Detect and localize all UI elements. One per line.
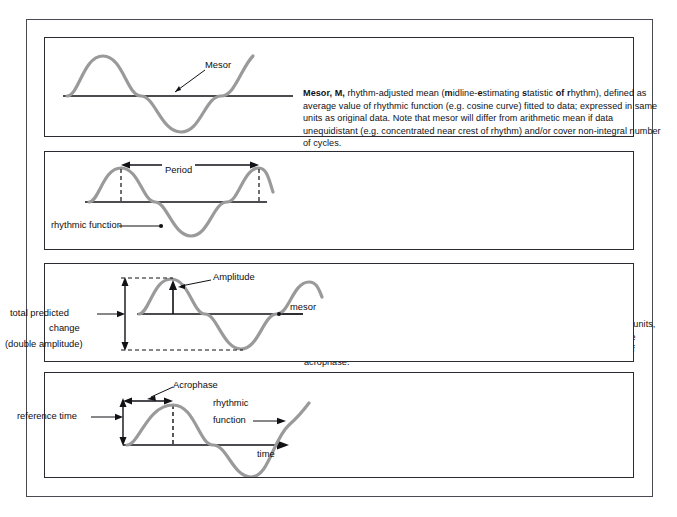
panel-period: Period rhythmic function Period, τ, dura…: [44, 151, 634, 250]
amplitude-callout-label: Amplitude: [213, 271, 255, 282]
period-callout-label: Period: [162, 164, 195, 175]
diagram-amplitude: Amplitude total predicted change (double…: [45, 264, 345, 361]
rhythmic-function-label-line2: function: [213, 414, 246, 425]
diagram-mesor: Mesor: [45, 38, 305, 136]
rhythmic-function-callout-label: rhythmic function: [51, 219, 122, 230]
figure-root: Mesor Mesor, M, rhythm-adjusted mean (mi…: [0, 0, 677, 517]
panel-acrophase: Acrophase reference time rhythmic functi…: [44, 372, 634, 478]
total-predicted-change-line1: total predicted: [10, 307, 69, 318]
panel-mesor: Mesor Mesor, M, rhythm-adjusted mean (mi…: [44, 37, 634, 137]
panel-amplitude: Amplitude total predicted change (double…: [44, 263, 634, 362]
mesor-callout-label-amplitude: mesor: [290, 301, 316, 312]
mesor-callout-label: Mesor: [205, 59, 231, 70]
reference-time-label: reference time: [17, 410, 77, 421]
text-mesor: Mesor, M, rhythm-adjusted mean (midline-…: [303, 87, 668, 150]
acrophase-callout-label: Acrophase: [173, 379, 218, 390]
diagram-period: Period rhythmic function: [45, 152, 305, 249]
double-amplitude-label: (double amplitude): [5, 338, 83, 349]
time-axis-label: time: [257, 448, 275, 459]
total-predicted-change-line2: change: [49, 322, 80, 333]
diagram-acrophase: Acrophase reference time rhythmic functi…: [45, 373, 345, 477]
rhythmic-function-label-line1: rhythmic: [213, 397, 248, 408]
